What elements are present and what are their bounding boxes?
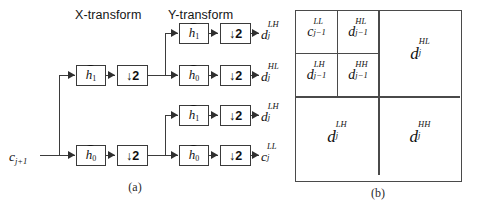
subband-cell-d-j-HH: dHHHHj <box>380 97 460 175</box>
y-filter-row1-subscript: 1 <box>195 32 199 41</box>
subband-0-subscript: j−1 <box>313 28 325 37</box>
arrowhead-y-row4-out <box>252 151 259 159</box>
wire-xbot-split-v <box>165 115 166 156</box>
arrowhead-x-h1-to-down <box>108 71 115 79</box>
arrowhead-y-row3-out <box>252 111 259 119</box>
subband-2-symbol: d <box>307 67 314 82</box>
panel-b-caption: (b) <box>358 186 398 201</box>
subband-4-superscript: HL <box>419 37 430 46</box>
subband-1-superscript: HL <box>355 17 366 26</box>
output-row1-symbol: d <box>261 27 268 42</box>
arrowhead-to-y-h0-top <box>171 71 178 79</box>
arrowhead-y-row2-to-down <box>211 71 218 79</box>
y-filter-row4-subscript: 0 <box>195 154 199 163</box>
x-filter-h1-subscript: 1 <box>92 74 96 83</box>
subband-3-subscript: j−1 <box>355 71 367 80</box>
subband-label-d-j-1-LH: dj−1LHj−1 <box>307 68 326 82</box>
arrowhead-y-row1-to-down <box>211 29 218 37</box>
subband-label-d-j-LH: dLHLHj <box>327 128 346 145</box>
subband-0-superscript: LL <box>313 17 322 26</box>
subband-cell-d-j-1-HH: dj−1HHj−1 <box>338 54 378 96</box>
wire-xbot-out <box>148 155 166 156</box>
x-downsample-bottom-block[interactable]: ↓2 <box>117 145 148 166</box>
subband-cell-d-j-1-HL: dj−1HLj−1 <box>338 11 378 53</box>
arrowhead-x-h0-to-down <box>108 151 115 159</box>
arrowhead-y-row1-out <box>252 29 259 37</box>
wire-xtop-split-v <box>165 33 166 76</box>
x-filter-h0-block[interactable]: h0 <box>76 145 106 166</box>
output-label-row4: cLLLLj <box>261 150 276 164</box>
subband-2-superscript: LH <box>314 60 325 69</box>
subband-cell-c-j-1-LL: cj−1LLj−1 <box>296 11 337 53</box>
arrowhead-to-y-h1-bot <box>171 111 178 119</box>
y-downsample-row3-block[interactable]: ↓2 <box>220 105 251 126</box>
subband-cell-d-j-HL: dHLHLj <box>380 11 460 96</box>
wire-input-h <box>40 155 60 156</box>
output-row4-superscript: LL <box>267 142 276 151</box>
subband-cell-d-j-LH: dLHLHj <box>296 97 378 175</box>
output-label-row2: dHLHLj <box>261 70 279 84</box>
subband-1-subscript: j−1 <box>355 28 367 37</box>
subband-label-d-j-1-HH: dj−1HHj−1 <box>348 68 367 82</box>
subband-6-subscript: j <box>418 131 420 140</box>
output-row2-superscript: HL <box>268 62 279 71</box>
subband-6-superscript: HH <box>418 120 430 129</box>
x-transform-header: X-transform <box>75 8 141 22</box>
y-filter-row3-subscript: 1 <box>195 114 199 123</box>
subband-4-subscript: j <box>419 48 421 57</box>
subband-4-symbol: d <box>410 44 419 63</box>
subband-5-superscript: LH <box>336 120 347 129</box>
output-row1-superscript: LH <box>268 20 279 29</box>
arrowhead-y-row3-to-down <box>211 111 218 119</box>
y-filter-row2-subscript: 0 <box>195 74 199 83</box>
subband-cell-d-j-1-LH: dj−1LHj−1 <box>296 54 337 96</box>
subband-label-d-j-HL: dHLHLj <box>410 45 429 62</box>
subband-5-subscript: j <box>336 131 338 140</box>
input-subscript: j+1 <box>15 156 27 166</box>
y-transform-header: Y-transform <box>168 8 233 22</box>
arrowhead-y-row4-to-down <box>211 151 218 159</box>
y-filter-row1-block[interactable]: h1 <box>179 23 209 44</box>
panel-a-caption: (a) <box>115 180 155 195</box>
arrowhead-y-row2-out <box>252 71 259 79</box>
output-row3-subscript: j <box>268 113 270 122</box>
output-row2-subscript: j <box>268 73 270 82</box>
y-downsample-row1-block[interactable]: ↓2 <box>220 23 251 44</box>
output-row2-symbol: d <box>261 69 268 84</box>
subband-2-subscript: j−1 <box>314 71 326 80</box>
subband-label-d-j-1-HL: dj−1HLj−1 <box>348 25 367 39</box>
subband-5-symbol: d <box>327 127 336 146</box>
output-row3-symbol: d <box>261 109 268 124</box>
output-row3-superscript: LH <box>268 102 279 111</box>
figure-root: X-transform Y-transform cj+1 h1 ↓2 h0 ↓2 <box>0 0 482 207</box>
subband-3-superscript: HH <box>355 60 367 69</box>
x-downsample-top-block[interactable]: ↓2 <box>117 65 148 86</box>
panel-b-subband-map: cj−1LLj−1 dj−1HLj−1 dj−1LHj−1 dj−1HHj−1 … <box>295 10 462 182</box>
y-filter-row2-block[interactable]: h0 <box>179 65 209 86</box>
output-row1-subscript: j <box>268 31 270 40</box>
arrowhead-to-x-h0 <box>68 151 75 159</box>
arrowhead-to-x-h1 <box>68 71 75 79</box>
x-filter-h0-subscript: 0 <box>92 154 96 163</box>
subband-label-c-j-1-LL: cj−1LLj−1 <box>307 25 326 39</box>
x-filter-h1-block[interactable]: h1 <box>76 65 106 86</box>
arrowhead-to-y-h1-top <box>171 29 178 37</box>
y-filter-row3-block[interactable]: h1 <box>179 105 209 126</box>
y-downsample-row2-block[interactable]: ↓2 <box>220 65 251 86</box>
y-filter-row4-block[interactable]: h0 <box>179 145 209 166</box>
arrowhead-to-y-h0-bot <box>171 151 178 159</box>
output-label-row1: dLHLHj <box>261 28 279 42</box>
input-label-c-j-plus-1: cj+1 <box>9 150 27 166</box>
subband-label-d-j-HH: dHHHHj <box>410 128 431 145</box>
wire-input-split-v <box>59 75 60 156</box>
y-downsample-row4-block[interactable]: ↓2 <box>220 145 251 166</box>
wire-xtop-out <box>148 75 166 76</box>
output-row4-subscript: j <box>267 153 269 162</box>
output-label-row3: dLHLHj <box>261 110 279 124</box>
subband-6-symbol: d <box>410 127 419 146</box>
